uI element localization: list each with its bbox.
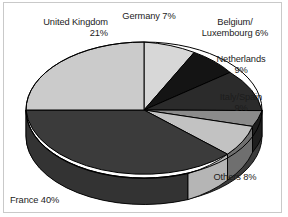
slice-label-germany: Germany 7% <box>110 11 188 22</box>
slice-label-france: France 40% <box>10 195 100 206</box>
chart-area: United Kingdom 21% Germany 7% Belgium/ L… <box>0 0 288 217</box>
wedge-united-kingdom <box>26 42 144 110</box>
slice-label-belgium-luxembourg: Belgium/ Luxembourg 6% <box>193 17 277 39</box>
pie-chart-figure: United Kingdom 21% Germany 7% Belgium/ L… <box>0 0 288 217</box>
slice-label-netherlands: Netherlands 9% <box>205 54 277 76</box>
slice-label-others: Others 8% <box>199 172 271 183</box>
slice-label-italy-spain: Italy/Spain 9% <box>205 92 277 114</box>
slice-label-united-kingdom: United Kingdom 21% <box>8 17 108 39</box>
